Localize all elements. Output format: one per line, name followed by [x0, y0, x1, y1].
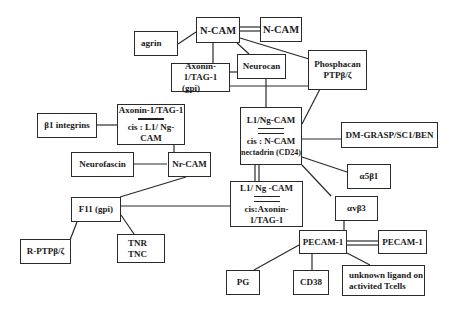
node-axonin-cis: Axonin-1/TAG-1cis : L1/ Ng-CAM	[117, 104, 185, 145]
node-f11: F11 (gpi)	[71, 197, 121, 222]
node-label: Axonin-1/TAG-1	[119, 105, 183, 116]
node-label: β1 integrins	[44, 120, 90, 131]
node-label: Neurocan	[243, 61, 280, 72]
node-label: N-CAM	[200, 25, 236, 36]
node-l1-cis: L1/ Ng -CAMcis:Axonin-1/TAG-1	[230, 181, 303, 227]
interaction-diagram: N-CAM N-CAM agrin Axonin-1/TAG-1(gpi) Ne…	[0, 0, 454, 312]
node-label: αvβ3	[347, 203, 366, 214]
node-phosphacan: PhosphacanPTPβ/ζ	[308, 50, 367, 90]
node-label: PG	[237, 277, 250, 288]
node-cd38: CD38	[293, 270, 329, 295]
node-unknown-ligand: unknown ligand onactivited Tcells	[342, 265, 425, 296]
node-label: PECAM-1	[303, 237, 344, 248]
node-agrin: agrin	[134, 31, 178, 56]
node-label: DM-GRASP/SC1/BEN	[345, 130, 433, 141]
node-sublabel: TNC	[128, 249, 147, 260]
node-tnr-tnc: TNRTNC	[117, 234, 165, 263]
node-label: R-PTPβ/ζ	[27, 246, 64, 257]
node-ncam-main: N-CAM	[196, 17, 240, 43]
node-label: N-CAM	[263, 24, 299, 35]
node-rptp: R-PTPβ/ζ	[20, 239, 71, 264]
node-pecam-main: PECAM-1	[299, 230, 347, 254]
node-label: CD38	[300, 277, 322, 288]
node-sublabel: cis:Axonin-1/TAG-1	[231, 204, 302, 226]
node-pg: PG	[226, 270, 260, 295]
node-neurofascin: Neurofascin	[71, 152, 134, 177]
node-label: L1/ Ng -CAM	[240, 183, 293, 194]
node-sublabel: PTPβ/ζ	[324, 70, 352, 81]
node-label: Phosphacan	[314, 59, 361, 70]
double-line-divider	[258, 128, 284, 134]
double-line-divider	[254, 196, 280, 202]
node-nrcam: Nr-CAM	[168, 152, 211, 177]
node-axonin-gpi: Axonin-1/TAG-1(gpi)	[171, 63, 230, 92]
node-dm-grasp: DM-GRASP/SC1/BEN	[341, 122, 438, 148]
node-sublabel: activited Tcells	[349, 281, 406, 292]
node-label: Neurofascin	[79, 159, 125, 170]
node-label: TNR	[128, 238, 147, 249]
node-a5b1: α5β1	[347, 164, 391, 189]
node-label: L1/Ng-CAM	[247, 115, 296, 126]
node-pecam-right: PECAM-1	[378, 230, 427, 254]
node-label: F11 (gpi)	[79, 204, 113, 215]
double-line-divider	[138, 118, 164, 120]
node-sublabel: cis : N-CAM	[247, 136, 296, 147]
node-sublabel: cis : L1/ Ng-CAM	[118, 122, 184, 144]
node-label: agrin	[141, 38, 162, 49]
node-label: PECAM-1	[382, 237, 423, 248]
node-neurocan: Neurocan	[237, 54, 286, 79]
node-avb3: αvβ3	[335, 196, 378, 221]
node-label: α5β1	[360, 171, 379, 182]
node-sublabel: (gpi)	[172, 83, 200, 94]
node-l1-main: L1/Ng-CAMcis : N-CAMnectadrin (CD24)	[240, 107, 302, 165]
node-label: Axonin-1/TAG-1	[172, 61, 229, 83]
node-label: unknown ligand on	[349, 270, 423, 281]
node-label: Nr-CAM	[172, 159, 207, 170]
node-b1-integrins: β1 integrins	[37, 113, 97, 138]
node-ncam-right: N-CAM	[260, 17, 302, 42]
node-sublabel: nectadrin (CD24)	[241, 147, 301, 158]
